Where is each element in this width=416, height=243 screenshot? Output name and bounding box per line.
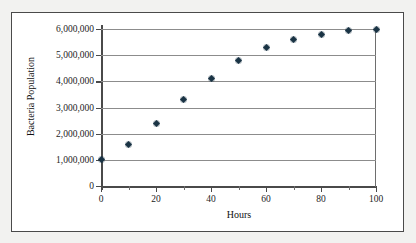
data-point [372,25,379,32]
data-point [345,27,352,34]
gridline-y [101,134,376,135]
x-axis-minor-tick [239,186,240,190]
x-axis-tick-label: 60 [246,194,286,205]
x-axis-tick [376,186,377,192]
chart-screenshot: 01,000,0002,000,0003,000,0004,000,0005,0… [0,0,416,243]
y-axis-tick [96,29,101,30]
y-axis-tick-label: 3,000,000 [56,103,94,113]
x-axis-tick-label: 100 [356,194,396,205]
y-axis-tick [96,134,101,135]
x-axis-tick [321,186,322,192]
gridline-y [101,108,376,109]
y-axis-tick [96,81,101,82]
scatter-chart: 01,000,0002,000,0003,000,0004,000,0005,0… [12,13,403,231]
data-point [262,44,269,51]
data-point [125,141,132,148]
x-axis-tick-label: 0 [81,194,121,205]
x-axis-tick [266,186,267,192]
data-point [207,75,214,82]
y-axis-tick-label: 1,000,000 [56,155,94,165]
y-axis-tick-label: 5,000,000 [56,50,94,60]
gridline-y [101,29,376,30]
data-point [317,31,324,38]
x-axis-tick [156,186,157,192]
y-axis-tick [96,108,101,109]
x-axis-minor-tick [294,186,295,190]
y-axis-tick-label: 2,000,000 [56,129,94,139]
data-point [97,156,104,163]
figure-frame: 01,000,0002,000,0003,000,0004,000,0005,0… [11,12,404,232]
x-axis-tick [211,186,212,192]
x-axis-tick [101,186,102,192]
x-axis-minor-tick [129,186,130,190]
y-axis-tick-label: 4,000,000 [56,76,94,86]
x-axis-tick-label: 20 [136,194,176,205]
data-point [290,36,297,43]
gridline-y [101,81,376,82]
x-axis-minor-tick [184,186,185,190]
x-axis-minor-tick [349,186,350,190]
data-point [235,57,242,64]
y-axis-tick-label: 6,000,000 [56,24,94,34]
x-axis-tick-label: 40 [191,194,231,205]
x-axis-tick-label: 80 [301,194,341,205]
gridline-y [101,160,376,161]
x-axis-title: Hours [101,209,377,220]
data-point [152,120,159,127]
y-axis-tick-label: 0 [89,181,94,191]
y-axis-tick [96,55,101,56]
plot-area [101,29,376,186]
y-axis-title: Bacteria Population [25,32,36,162]
